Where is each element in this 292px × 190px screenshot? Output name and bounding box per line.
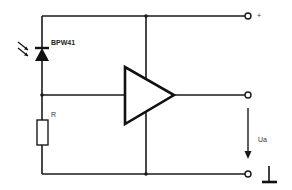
junction-dot: [144, 14, 148, 18]
voltage-arrow-icon: [245, 108, 252, 159]
amplifier-icon: [125, 67, 174, 124]
output-terminal: [245, 92, 251, 98]
photodiode-icon: [35, 48, 49, 95]
resistor-icon: [37, 95, 48, 174]
resistor-label: R: [51, 111, 56, 118]
output-voltage-label: Ua: [258, 136, 267, 143]
circuit-diagram: BPW41 R + Ua: [0, 0, 292, 190]
junction-dot: [144, 172, 148, 176]
supply-terminal: [245, 13, 251, 19]
light-arrows-icon: [18, 42, 28, 56]
supply-label: +: [257, 12, 261, 19]
photodiode-label: BPW41: [51, 39, 75, 46]
ground-wire: [42, 112, 245, 176]
ground-terminal: [245, 171, 251, 177]
supply-wire: [42, 14, 245, 78]
ground-icon: [262, 166, 277, 182]
